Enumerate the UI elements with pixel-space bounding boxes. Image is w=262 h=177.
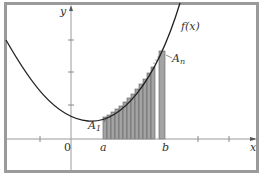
a1-label: A1 — [88, 120, 101, 133]
a-label: a — [100, 142, 107, 153]
b-label: b — [162, 142, 169, 153]
a1-label-main: A — [88, 119, 96, 132]
y-axis-arrow-icon — [69, 5, 73, 11]
diagram-canvas — [0, 0, 262, 177]
an-label-main: A — [172, 52, 180, 65]
frame-border — [6, 4, 258, 172]
a1-label-sub: 1 — [96, 124, 101, 133]
x-axis-label: x — [250, 142, 256, 153]
an-label-sub: n — [180, 57, 185, 66]
riemann-sum-diagram: y x f(x) 0 a b A1 An — [0, 0, 262, 177]
function-label: f(x) — [181, 21, 200, 32]
y-axis-label: y — [60, 6, 66, 17]
an-label: An — [172, 53, 185, 66]
origin-label: 0 — [64, 142, 71, 153]
